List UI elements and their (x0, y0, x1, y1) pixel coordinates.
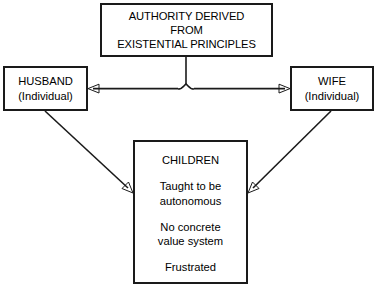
brace-curl-icon (178, 84, 194, 89)
children-trait-1: Taught to be autonomous (160, 179, 222, 208)
children-title: CHILDREN (162, 153, 219, 167)
husband-title: HUSBAND (18, 74, 73, 89)
authority-line-2: FROM (170, 23, 203, 37)
diagram-canvas: AUTHORITY DERIVED FROM EXISTENTIAL PRINC… (0, 0, 377, 302)
children-trait-3-line-1: Frustrated (165, 260, 216, 274)
children-trait-1-line-2: autonomous (160, 194, 222, 208)
children-trait-2-line-2: value system (158, 234, 223, 248)
authority-line-3: EXISTENTIAL PRINCIPLES (117, 37, 256, 51)
children-title-block: CHILDREN (162, 153, 219, 167)
children-trait-1-line-1: Taught to be (160, 179, 222, 193)
husband-box: HUSBAND (Individual) (3, 66, 88, 111)
authority-line-1: AUTHORITY DERIVED (129, 9, 245, 23)
husband-subtitle: (Individual) (18, 89, 73, 104)
wife-box: WIFE (Individual) (290, 66, 374, 111)
children-trait-3: Frustrated (165, 260, 216, 274)
wife-title: WIFE (318, 74, 346, 89)
husband-to-children-line (45, 111, 128, 188)
authority-box: AUTHORITY DERIVED FROM EXISTENTIAL PRINC… (100, 3, 273, 57)
children-trait-2: No concrete value system (158, 220, 223, 249)
wife-subtitle: (Individual) (305, 89, 360, 104)
wife-to-children-line (253, 111, 331, 188)
children-box: CHILDREN Taught to be autonomous No conc… (133, 140, 248, 284)
children-trait-2-line-1: No concrete (158, 220, 223, 234)
